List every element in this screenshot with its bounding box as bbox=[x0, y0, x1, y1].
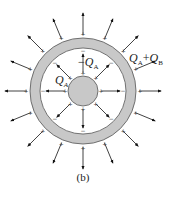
plus-sign: + bbox=[80, 144, 85, 151]
plus-sign: + bbox=[93, 100, 98, 107]
shell-outer-charge-label: QA+QB bbox=[129, 51, 163, 67]
plus-sign: + bbox=[121, 47, 126, 54]
figure-caption: (b) bbox=[77, 171, 90, 184]
plus-sign: + bbox=[80, 30, 85, 37]
minus-sign: − bbox=[80, 47, 85, 54]
plus-sign: + bbox=[98, 87, 103, 94]
plus-sign: + bbox=[59, 140, 64, 147]
minus-sign: − bbox=[120, 87, 125, 94]
plus-sign: + bbox=[80, 105, 85, 112]
plus-sign: + bbox=[133, 109, 138, 116]
inner-sphere-charge-label: QA bbox=[55, 73, 69, 89]
plus-sign: + bbox=[121, 127, 126, 134]
minus-sign: − bbox=[52, 59, 57, 66]
plus-sign: + bbox=[28, 109, 33, 116]
plus-sign: + bbox=[93, 74, 98, 81]
minus-sign: − bbox=[109, 59, 114, 66]
plus-sign: + bbox=[40, 127, 45, 134]
plus-sign: + bbox=[59, 34, 64, 41]
plus-sign: + bbox=[80, 69, 85, 76]
plus-sign: + bbox=[28, 65, 33, 72]
charged-sphere-shell-diagram: +++++++++++++++++−+−+−+−+−+−+−+− QA −QA … bbox=[0, 0, 179, 198]
plus-sign: + bbox=[68, 100, 73, 107]
plus-sign: + bbox=[68, 74, 73, 81]
plus-sign: + bbox=[40, 47, 45, 54]
plus-sign: + bbox=[102, 34, 107, 41]
minus-sign: − bbox=[40, 87, 45, 94]
plus-sign: + bbox=[137, 87, 142, 94]
minus-sign: − bbox=[109, 115, 114, 122]
minus-sign: − bbox=[52, 115, 57, 122]
shell-inner-charge-label: −QA bbox=[78, 55, 99, 71]
plus-sign: + bbox=[102, 140, 107, 147]
plus-sign: + bbox=[23, 87, 28, 94]
minus-sign: − bbox=[80, 127, 85, 134]
